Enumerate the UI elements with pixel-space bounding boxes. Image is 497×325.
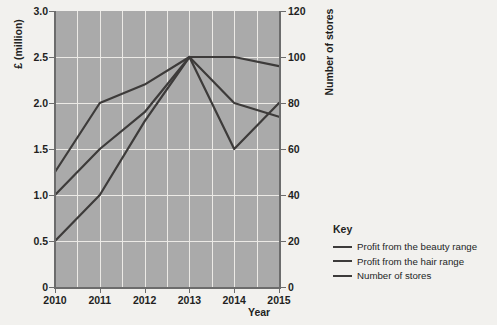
y-axis-right-tick-label: 80 [288,97,328,109]
legend-line-icon [333,275,352,277]
x-axis-tick [145,289,146,293]
legend-item-label: Profit from the hair range [357,256,464,267]
y-axis-right-tick-label: 0 [288,281,328,293]
line-chart: 3.02.52.01.51.00.50120100806040200201020… [0,0,497,325]
y-axis-left-tick [49,57,54,58]
x-axis-tick [100,289,101,293]
y-axis-left-tick-label: 0 [8,281,48,293]
legend-item-label: Number of stores [357,270,431,281]
x-axis-tick-label: 2013 [166,294,212,306]
y-axis-left-tick [49,149,54,150]
y-axis-right-tick [281,195,286,196]
x-axis-line [54,287,281,289]
x-axis-tick [189,289,190,293]
y-axis-left-tick [49,103,54,104]
y-axis-right-tick [281,11,286,12]
legend-title: Key [333,223,493,235]
series-line [55,57,279,195]
y-axis-right-tick-label: 60 [288,143,328,155]
x-axis-tick-label: 2010 [32,294,78,306]
y-axis-right-tick [281,241,286,242]
x-axis-tick [279,289,280,293]
x-axis-tick-label: 2011 [77,294,123,306]
x-axis-tick-label: 2015 [256,294,302,306]
y-axis-left-tick-label: 2.0 [8,97,48,109]
y-axis-left-tick-label: 1.0 [8,189,48,201]
x-axis-tick [234,289,235,293]
legend: Key Profit from the beauty range Profit … [333,223,493,285]
y-axis-right-tick-label: 100 [288,51,328,63]
y-axis-left-tick-label: 0.5 [8,235,48,247]
legend-line-icon [333,260,352,262]
x-axis-title: Year [248,306,270,318]
y-axis-left-line [54,11,56,288]
legend-item-beauty: Profit from the beauty range [333,241,493,252]
y-axis-left-tick-label: 1.5 [8,143,48,155]
y-axis-right-title: Number of stores [323,0,335,107]
y-axis-left-title: £ (million) [12,0,24,89]
plot-area [55,11,279,287]
y-axis-left-tick [49,195,54,196]
y-axis-right-tick [281,149,286,150]
y-axis-left-tick [49,241,54,242]
legend-item-hair: Profit from the hair range [333,256,493,267]
y-axis-right-tick [281,57,286,58]
x-axis-tick-label: 2014 [211,294,257,306]
x-axis-tick-label: 2012 [122,294,168,306]
y-axis-right-tick [281,103,286,104]
y-axis-left-tick [49,287,54,288]
y-axis-right-tick [281,287,286,288]
legend-item-label: Profit from the beauty range [357,241,477,252]
y-axis-right-tick-label: 40 [288,189,328,201]
legend-item-stores: Number of stores [333,270,493,281]
series-line [55,57,279,172]
y-axis-right-tick-label: 20 [288,235,328,247]
x-axis-tick [55,289,56,293]
y-axis-right-tick-label: 120 [288,5,328,17]
series-lines [55,11,279,287]
y-axis-left-tick [49,11,54,12]
legend-line-icon [333,246,352,248]
